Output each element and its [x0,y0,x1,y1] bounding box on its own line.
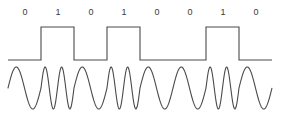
bit-label-6: 1 [220,7,225,17]
fsk-waveform-svg: 0 1 0 1 0 0 1 0 [0,0,282,120]
bit-label-2: 0 [88,7,93,17]
bit-label-4: 0 [154,7,159,17]
fsk-modulation-figure: 0 1 0 1 0 0 1 0 [0,0,282,120]
bit-label-7: 0 [253,7,258,17]
bit-label-1: 1 [55,7,60,17]
bit-label-5: 0 [187,7,192,17]
bit-label-3: 1 [121,7,126,17]
bit-label-0: 0 [22,7,27,17]
